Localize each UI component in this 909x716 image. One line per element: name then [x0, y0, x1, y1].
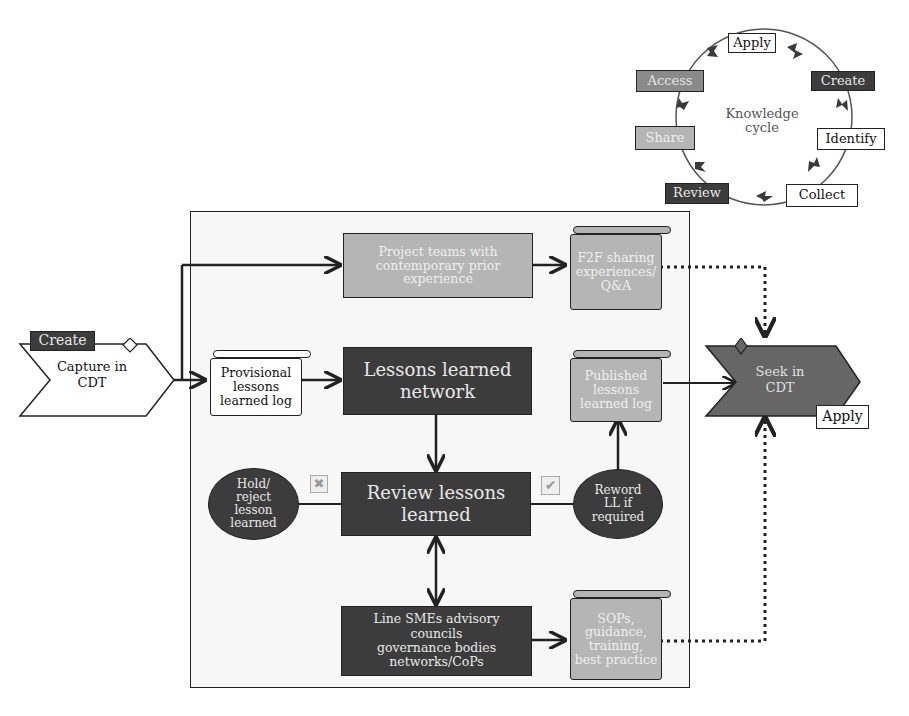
scroll-curl [573, 350, 671, 358]
scroll-curl [573, 590, 671, 598]
cycle-stage-review: Review [665, 183, 729, 204]
seek-label: Seek in CDT [755, 364, 805, 395]
cycle-stage-identify: Identify [817, 128, 885, 150]
published-log-node: Published lessons learned log [570, 358, 662, 422]
provisional-log-node: Provisional lessons learned log [210, 358, 302, 416]
cycle-stage-share: Share [635, 126, 695, 150]
cycle-stage-access: Access [636, 70, 704, 92]
cycle-stage-create: Create [811, 71, 875, 91]
f2f-sharing-node: F2F sharing experiences/ Q&A [570, 234, 662, 310]
reject-cross-icon: ✖ [310, 475, 328, 493]
project-teams-node: Project teams with contemporary prior ex… [343, 233, 533, 298]
scroll-curl [573, 226, 671, 234]
capture-tag: Create [30, 331, 95, 351]
hold-reject-node: Hold/ reject lesson learned [208, 468, 299, 540]
cycle-stage-collect: Collect [786, 184, 858, 207]
capture-label: Capture in CDT [52, 359, 132, 390]
review-ll-node: Review lessons learned [341, 472, 531, 536]
cycle-stage-apply: Apply [728, 33, 776, 53]
line-smes-node: Line SMEs advisory councils governance b… [341, 606, 532, 676]
accept-check-icon: ✔ [541, 476, 560, 495]
cycle-center-label: Knowledge cycle [712, 107, 812, 136]
scroll-curl [213, 350, 311, 358]
seek-tag: Apply [816, 405, 869, 429]
sops-node: SOPs, guidance, training, best practice [570, 598, 662, 680]
ll-network-node: Lessons learned network [343, 347, 532, 415]
knowledge-cycle: Knowledge cycle Apply Create Identify Co… [620, 0, 909, 215]
reword-node: Reword LL if required [573, 469, 663, 539]
